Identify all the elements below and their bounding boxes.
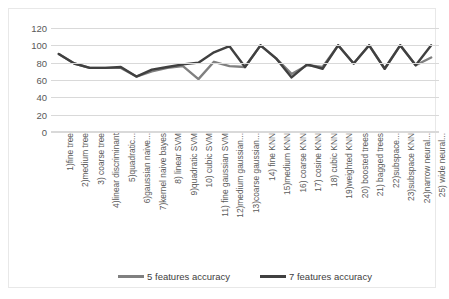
plot-area [51, 28, 439, 132]
x-axis-tick-text: 12)medium gaussian... [234, 131, 247, 261]
x-axis-tick-label: 5)quadratic... [126, 131, 139, 261]
x-axis-tick-text: 16) coarse KNN [297, 131, 310, 261]
x-axis-tick-label: 12)medium gaussian... [234, 131, 247, 261]
x-axis-tick-text: 7)kernel naive bayes [157, 131, 170, 261]
y-axis-tick-label: 20 [13, 110, 47, 119]
x-axis-tick-label: 19)weighted KNN [343, 131, 356, 261]
gridline [51, 28, 439, 29]
x-axis-tick-label: 11) fine gaussian SVM [219, 131, 232, 261]
x-axis-tick-label: 13)coarse gaussian... [250, 131, 263, 261]
y-axis: 120100806040200 [9, 28, 47, 132]
x-axis-tick-text: 10) cubic SVM [203, 131, 216, 261]
x-axis-tick-label: 6)gaussian naive... [141, 131, 154, 261]
x-axis-tick-label: 2)medium tree [79, 131, 92, 261]
gridline [51, 80, 439, 81]
x-axis-tick-text: 9)quadratic SVM [188, 131, 201, 261]
x-axis-tick-label: 25) wide neural... [436, 131, 449, 261]
legend-entry[interactable]: 7 features accuracy [260, 271, 372, 282]
x-axis-tick-label: 16) coarse KNN [297, 131, 310, 261]
x-axis-tick-text: 4)linear discriminant [110, 131, 123, 261]
x-axis-tick-label: 15)medium KNN [281, 131, 294, 261]
x-axis-tick-label: 9)quadratic SVM [188, 131, 201, 261]
y-axis-tick-label: 120 [13, 24, 47, 33]
chart-legend: 5 features accuracy7 features accuracy [51, 267, 439, 285]
x-axis-tick-label: 23)subspace KNN [405, 131, 418, 261]
x-axis-tick-label: 24)narrow neural... [421, 131, 434, 261]
x-axis-tick-label: 20) boosted trees [359, 131, 372, 261]
x-axis-tick-text: 25) wide neural... [436, 131, 449, 261]
chart-container: 120100806040200 1)fine tree2)medium tree… [8, 8, 436, 288]
x-axis-tick-text: 23)subspace KNN [405, 131, 418, 261]
x-axis-tick-text: 2)medium tree [79, 131, 92, 261]
x-axis-tick-text: 5)quadratic... [126, 131, 139, 261]
x-axis-tick-label: 14) fine KNN [266, 131, 279, 261]
gridline [51, 45, 439, 46]
y-axis-tick-label: 40 [13, 93, 47, 102]
x-axis-tick-label: 17) cosine KNN [312, 131, 325, 261]
x-axis-tick-text: 24)narrow neural... [421, 131, 434, 261]
x-axis-tick-text: 6)gaussian naive... [141, 131, 154, 261]
x-axis-tick-text: 3) coarse tree [95, 131, 108, 261]
x-axis-tick-text: 8) linear SVM [172, 131, 185, 261]
x-axis-tick-label: 10) cubic SVM [203, 131, 216, 261]
series-line [59, 45, 431, 77]
legend-line-swatch [118, 275, 144, 278]
x-axis-tick-text: 19)weighted KNN [343, 131, 356, 261]
x-axis-tick-text: 18) cubic KNN [328, 131, 341, 261]
x-axis-labels: 1)fine tree2)medium tree3) coarse tree4)… [51, 133, 439, 263]
x-axis-tick-label: 22)subspace... [390, 131, 403, 261]
x-axis-tick-text: 21) bagged trees [374, 131, 387, 261]
x-axis-tick-label: 8) linear SVM [172, 131, 185, 261]
y-axis-tick-label: 100 [13, 41, 47, 50]
x-axis-tick-label: 18) cubic KNN [328, 131, 341, 261]
x-axis-tick-text: 20) boosted trees [359, 131, 372, 261]
legend-label: 5 features accuracy [147, 271, 230, 282]
gridline [51, 97, 439, 98]
x-axis-tick-label: 7)kernel naive bayes [157, 131, 170, 261]
x-axis-tick-label: 4)linear discriminant [110, 131, 123, 261]
legend-entry[interactable]: 5 features accuracy [118, 271, 230, 282]
y-axis-tick-label: 80 [13, 58, 47, 67]
y-axis-tick-label: 60 [13, 76, 47, 85]
x-axis-tick-text: 22)subspace... [390, 131, 403, 261]
x-axis-tick-text: 17) cosine KNN [312, 131, 325, 261]
x-axis-tick-text: 15)medium KNN [281, 131, 294, 261]
x-axis-tick-label: 1)fine tree [64, 131, 77, 261]
gridline [51, 63, 439, 64]
x-axis-tick-text: 14) fine KNN [266, 131, 279, 261]
x-axis-tick-text: 13)coarse gaussian... [250, 131, 263, 261]
x-axis-tick-label: 21) bagged trees [374, 131, 387, 261]
y-axis-tick-label: 0 [13, 128, 47, 137]
x-axis-tick-text: 1)fine tree [64, 131, 77, 261]
x-axis-tick-text: 11) fine gaussian SVM [219, 131, 232, 261]
legend-line-swatch [260, 275, 286, 278]
x-axis-tick-label: 3) coarse tree [95, 131, 108, 261]
legend-label: 7 features accuracy [289, 271, 372, 282]
gridline [51, 115, 439, 116]
